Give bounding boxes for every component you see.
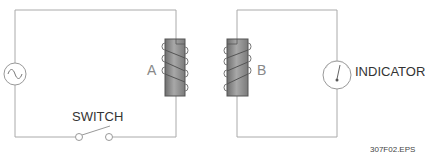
secondary-circuit-wires — [237, 10, 337, 137]
switch-label: SWITCH — [72, 109, 123, 124]
coil-b-icon — [224, 39, 251, 96]
coil-a-label: A — [147, 62, 156, 78]
figure-file-id: 307F02.EPS — [370, 145, 415, 154]
indicator-label: INDICATOR — [355, 64, 425, 79]
coil-a-icon — [162, 39, 188, 96]
coil-b-label: B — [257, 62, 266, 78]
indicator-meter-icon — [323, 61, 351, 89]
ac-source-icon — [4, 63, 26, 85]
switch-icon[interactable] — [76, 126, 113, 141]
